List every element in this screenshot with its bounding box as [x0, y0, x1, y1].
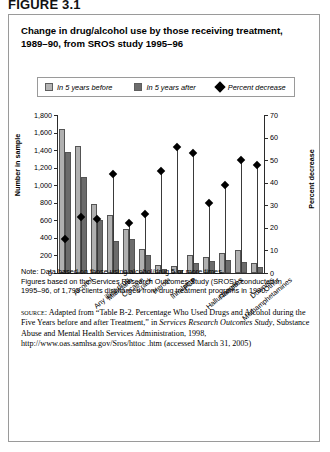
legend-item-after: In 5 years after: [134, 83, 195, 92]
bar-group: [251, 115, 262, 273]
source-italic-title: Services Research Outcomes Study: [159, 318, 272, 327]
y-axis-left-tick-label: 1,800: [34, 112, 52, 119]
y-axis-right-tick-label: 10: [270, 247, 278, 254]
y-axis-right-tick-label: 30: [270, 202, 278, 209]
legend-item-percent: Percent decrease: [216, 83, 286, 92]
bar-group: [235, 115, 246, 273]
marker-stem: [113, 174, 114, 273]
percent-decrease-marker: [253, 160, 261, 168]
chart-note: Note: Data based on those using alcohol/…: [21, 267, 311, 296]
chart-legend: In 5 years before In 5 years after Perce…: [37, 77, 295, 97]
bar-group: [187, 115, 198, 273]
bar-before: [75, 146, 80, 273]
axis-area: 1,8001,6001,4001,2001,0008006004002000 7…: [57, 115, 265, 273]
marker-stem: [177, 147, 178, 273]
y-axis-left-tick-label: 200: [40, 252, 52, 259]
marker-stem: [193, 153, 194, 273]
percent-decrease-marker: [189, 149, 197, 157]
legend-swatch-after-icon: [134, 83, 142, 91]
legend-label-percent: Percent decrease: [228, 83, 286, 92]
chart-title-line2: 1989–90, from SROS study 1995–96: [21, 38, 307, 51]
chart-title: Change in drug/alcohol use by those rece…: [21, 25, 307, 50]
y-axis-right-tick: [265, 115, 268, 116]
marker-stem: [257, 165, 258, 273]
bar-group: [171, 115, 182, 273]
y-axis-left-tick-label: 1,400: [34, 147, 52, 154]
note-line-3: 1995–96, of 1,799 clients discharged fro…: [21, 286, 311, 296]
y-axis-left-title: Number in sample: [13, 105, 22, 225]
y-axis-left-tick-label: 400: [40, 234, 52, 241]
percent-decrease-marker: [205, 199, 213, 207]
y-axis-right-tick-label: 40: [270, 179, 278, 186]
chart-source: source: Adapted from “Table B-2. Percent…: [21, 307, 313, 350]
y-axis-right-tick: [265, 228, 268, 229]
y-axis-right-title: Percent decrease: [307, 119, 316, 239]
legend-label-after: In 5 years after: [146, 83, 195, 92]
chart-title-line1: Change in drug/alcohol use by those rece…: [21, 25, 283, 36]
bar-group: [219, 115, 230, 273]
y-axis-right-tick: [265, 138, 268, 139]
bar-group: [123, 115, 134, 273]
percent-decrease-marker: [221, 181, 229, 189]
y-axis-left-tick-label: 1,000: [34, 182, 52, 189]
marker-stem: [129, 223, 130, 273]
y-axis-right-tick: [265, 250, 268, 251]
bar-group: [203, 115, 214, 273]
marker-stem: [241, 160, 242, 273]
percent-decrease-marker: [157, 167, 165, 175]
figure-container: FIGURE 3.1 Change in drug/alcohol use by…: [0, 0, 330, 452]
y-axis-right-tick-label: 70: [270, 112, 278, 119]
bar-after: [97, 220, 102, 273]
legend-swatch-before-icon: [45, 83, 53, 91]
y-axis-right-tick-label: 50: [270, 157, 278, 164]
bar-after: [81, 177, 86, 273]
marker-stem: [97, 219, 98, 273]
figure-number: FIGURE 3.1: [8, 0, 81, 12]
percent-decrease-marker: [125, 219, 133, 227]
y-axis-left-tick-label: 1,600: [34, 129, 52, 136]
bar-group: [139, 115, 150, 273]
y-axis-right-tick-label: 20: [270, 224, 278, 231]
plot-area: Number in sample Percent decrease 1,8001…: [9, 107, 319, 292]
legend-diamond-icon: [214, 81, 225, 92]
bar-series-group: [57, 115, 265, 273]
y-axis-left-tick-label: 1,200: [34, 164, 52, 171]
y-axis-left-tick-label: 800: [40, 199, 52, 206]
bar-group: [155, 115, 166, 273]
bar-group: [75, 115, 86, 273]
bar-group: [59, 115, 70, 273]
percent-decrease-marker: [141, 210, 149, 218]
bar-after: [65, 152, 70, 273]
marker-stem: [161, 171, 162, 273]
bar-before: [59, 129, 64, 273]
marker-stem: [145, 214, 146, 273]
marker-stem: [225, 185, 226, 273]
marker-stem: [81, 217, 82, 273]
percent-decrease-marker: [173, 142, 181, 150]
note-line-2: Figures based on the Services Research O…: [21, 277, 311, 287]
note-line-1: Note: Data based on those using alcohol/…: [21, 267, 311, 277]
percent-decrease-marker: [237, 156, 245, 164]
y-axis-right-tick: [265, 205, 268, 206]
y-axis-right-tick-label: 60: [270, 134, 278, 141]
y-axis-right-tick: [265, 183, 268, 184]
marker-stem: [209, 203, 210, 273]
y-axis-right-tick: [265, 160, 268, 161]
percent-decrease-marker: [109, 169, 117, 177]
figure-panel: Change in drug/alcohol use by those rece…: [8, 14, 320, 442]
legend-label-before: In 5 years before: [57, 83, 112, 92]
bar-group: [107, 115, 118, 273]
bar-before: [107, 215, 112, 273]
legend-item-before: In 5 years before: [45, 83, 112, 92]
bar-group: [91, 115, 102, 273]
y-axis-left-tick-label: 600: [40, 217, 52, 224]
source-label: source:: [21, 307, 47, 317]
